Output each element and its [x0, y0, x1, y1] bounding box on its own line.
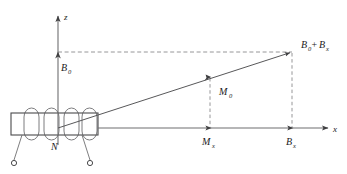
x-axis-label: x [332, 124, 337, 134]
b0-label-subscript: 0 [68, 68, 72, 75]
resultant-label-b0: B [301, 39, 307, 50]
m0-label-subscript: 0 [229, 92, 233, 99]
mx-label: M x [201, 136, 215, 149]
mx-label-subscript: x [211, 142, 215, 149]
solenoid-coil-group [11, 108, 98, 166]
diagram-canvas: z x B 0 N M 0 M x B x B 0 + B x [0, 0, 347, 174]
terminal-right [87, 160, 92, 165]
resultant-vector-arrow [58, 53, 290, 128]
resultant-label: B 0 + B x [301, 39, 329, 52]
mx-label-base: M [201, 136, 211, 147]
b0-label: B 0 [61, 62, 72, 75]
m0-label-base: M [218, 86, 228, 97]
bx-label: B x [286, 136, 296, 149]
resultant-label-bx: B [319, 39, 325, 50]
coil-turns-label: N [50, 141, 59, 152]
resultant-label-plus: + [312, 39, 318, 50]
bx-label-base: B [286, 136, 292, 147]
bx-label-subscript: x [292, 142, 296, 149]
resultant-label-bx-subscript: x [325, 45, 329, 52]
z-axis-label: z [63, 12, 68, 22]
terminal-left [11, 160, 16, 165]
b0-label-base: B [61, 62, 67, 73]
physics-diagram-figure: z x B 0 N M 0 M x B x B 0 + B x [0, 0, 347, 174]
m0-label: M 0 [218, 86, 233, 99]
